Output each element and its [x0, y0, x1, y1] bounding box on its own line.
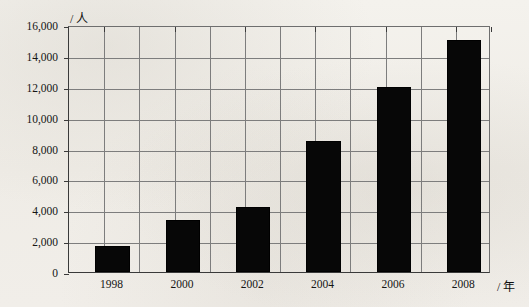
bar	[447, 40, 481, 272]
vertical-gridline	[421, 27, 422, 272]
y-axis-tick	[64, 212, 69, 213]
y-axis-tick	[64, 120, 69, 121]
y-axis-tick	[64, 58, 69, 59]
bar	[236, 207, 270, 272]
x-axis-tick-label: 2000	[170, 278, 193, 290]
vertical-gridline	[280, 27, 281, 272]
x-axis-tick-label: 2004	[311, 278, 334, 290]
horizontal-gridline	[69, 243, 489, 244]
x-axis-tick	[386, 27, 387, 32]
bar	[95, 246, 129, 272]
vertical-gridline	[104, 27, 105, 272]
vertical-gridline	[139, 27, 140, 272]
bar	[306, 141, 340, 272]
y-axis-tick-label: 2,000	[32, 236, 58, 248]
bar	[377, 87, 411, 272]
y-axis-tick	[64, 151, 69, 152]
x-axis-tick-label: 2008	[452, 278, 475, 290]
vertical-gridline	[350, 27, 351, 272]
y-axis-tick	[64, 243, 69, 244]
x-axis-tick-label: 2002	[241, 278, 264, 290]
x-axis-tick	[315, 27, 316, 32]
y-axis-tick-label: 10,000	[26, 113, 58, 125]
y-axis-tick-label: 12,000	[26, 82, 58, 94]
horizontal-gridline	[69, 151, 489, 152]
y-axis-tick-label: 6,000	[32, 174, 58, 186]
x-axis-tick	[245, 27, 246, 32]
x-axis-tick-label: 2006	[381, 278, 404, 290]
horizontal-gridline	[69, 89, 489, 90]
y-axis-tick-labels: 02,0004,0006,0008,00010,00012,00014,0001…	[0, 0, 62, 307]
horizontal-gridline	[69, 58, 489, 59]
vertical-gridline	[210, 27, 211, 272]
y-axis-tick	[64, 181, 69, 182]
y-axis-tick	[64, 89, 69, 90]
x-axis-unit-label: / 年	[497, 277, 515, 295]
y-axis-unit-label: / 人	[70, 9, 88, 27]
y-axis-tick-label: 0	[52, 267, 58, 279]
y-axis-tick	[64, 27, 69, 28]
x-axis-tick	[104, 27, 105, 32]
horizontal-gridline	[69, 212, 489, 213]
y-axis-tick-label: 16,000	[26, 20, 58, 32]
x-axis-tick	[175, 27, 176, 32]
bar-chart: / 人 / 年 02,0004,0006,0008,00010,00012,00…	[0, 0, 529, 307]
background-show-through-text	[210, 290, 212, 299]
y-axis-tick	[64, 274, 69, 275]
bar	[166, 220, 200, 272]
plot-area	[68, 26, 490, 273]
x-axis-tick-label: 1998	[100, 278, 123, 290]
y-axis-tick-label: 8,000	[32, 144, 58, 156]
x-axis-tick	[491, 27, 492, 32]
x-axis-tick	[456, 27, 457, 32]
y-axis-tick-label: 4,000	[32, 205, 58, 217]
horizontal-gridline	[69, 181, 489, 182]
horizontal-gridline	[69, 120, 489, 121]
y-axis-tick-label: 14,000	[26, 51, 58, 63]
